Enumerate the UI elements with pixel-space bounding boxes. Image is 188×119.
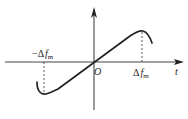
horizontal-axis-label: t [175,66,178,77]
positive-deviation-label: Δfm [133,67,149,80]
diagram-canvas: −Δfm Δfm O t [0,0,188,119]
origin-label: O [94,66,101,77]
negative-deviation-label: −Δfm [32,48,54,61]
